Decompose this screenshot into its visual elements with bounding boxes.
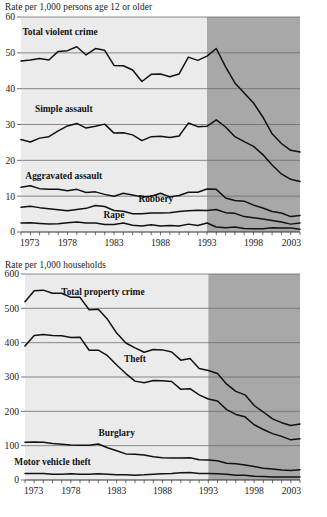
series-label-0: Total violent crime [22, 27, 97, 37]
xtick-label-1973: 1973 [20, 237, 39, 248]
xtick-label-1983: 1983 [104, 237, 123, 248]
ytick-label-300: 300 [5, 371, 20, 382]
property-crime-chart: Rate per 1,000 households 01002003004005… [0, 258, 327, 517]
violent-crime-plot: 0102030405060197319781983198819931998200… [0, 0, 327, 256]
series-label-3: Robbery [138, 194, 173, 204]
ytick-label-0: 0 [14, 474, 19, 485]
xtick-label-1998: 1998 [245, 485, 264, 496]
ytick-label-40: 40 [5, 83, 15, 94]
ytick-label-10: 10 [5, 191, 15, 202]
xtick-label-1973: 1973 [24, 485, 43, 496]
series-label-2: Burglary [98, 428, 135, 438]
series-label-3: Motor vehicle theft [14, 457, 91, 467]
ytick-label-600: 600 [5, 268, 20, 279]
violent-crime-chart: Rate per 1,000 persons age 12 or older 0… [0, 0, 327, 256]
series-label-1: Simple assault [35, 104, 93, 114]
series-label-4: Rape [104, 210, 125, 220]
xtick-label-1988: 1988 [153, 485, 172, 496]
xtick-label-1988: 1988 [151, 237, 170, 248]
ytick-label-500: 500 [5, 303, 20, 314]
xtick-label-1993: 1993 [199, 485, 218, 496]
ytick-label-30: 30 [5, 119, 15, 130]
xtick-label-1983: 1983 [107, 485, 126, 496]
xtick-label-2003: 2003 [282, 485, 301, 496]
property-crime-plot: 0100200300400500600197319781983198819931… [0, 258, 327, 517]
xtick-label-1978: 1978 [61, 485, 80, 496]
ytick-label-400: 400 [5, 337, 20, 348]
xtick-label-2003: 2003 [282, 237, 301, 248]
series-label-2: Aggravated assault [25, 171, 103, 181]
ytick-label-60: 60 [5, 11, 15, 22]
ytick-label-20: 20 [5, 155, 15, 166]
ytick-label-100: 100 [5, 440, 20, 451]
series-label-0: Total property crime [61, 287, 144, 297]
xtick-label-1978: 1978 [58, 237, 77, 248]
xtick-label-1998: 1998 [244, 237, 263, 248]
series-label-1: Theft [124, 354, 147, 364]
xtick-label-1993: 1993 [197, 237, 216, 248]
crime-trends-figure: Rate per 1,000 persons age 12 or older 0… [0, 0, 327, 517]
ytick-label-0: 0 [10, 226, 15, 237]
ytick-label-200: 200 [5, 406, 20, 417]
ytick-label-50: 50 [5, 47, 15, 58]
